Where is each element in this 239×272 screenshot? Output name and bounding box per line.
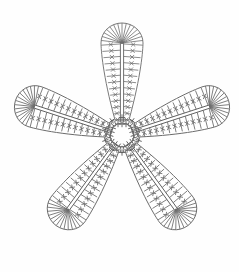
crochet-chart-root: [0, 0, 239, 272]
flower-motif-diagram: [0, 0, 239, 272]
